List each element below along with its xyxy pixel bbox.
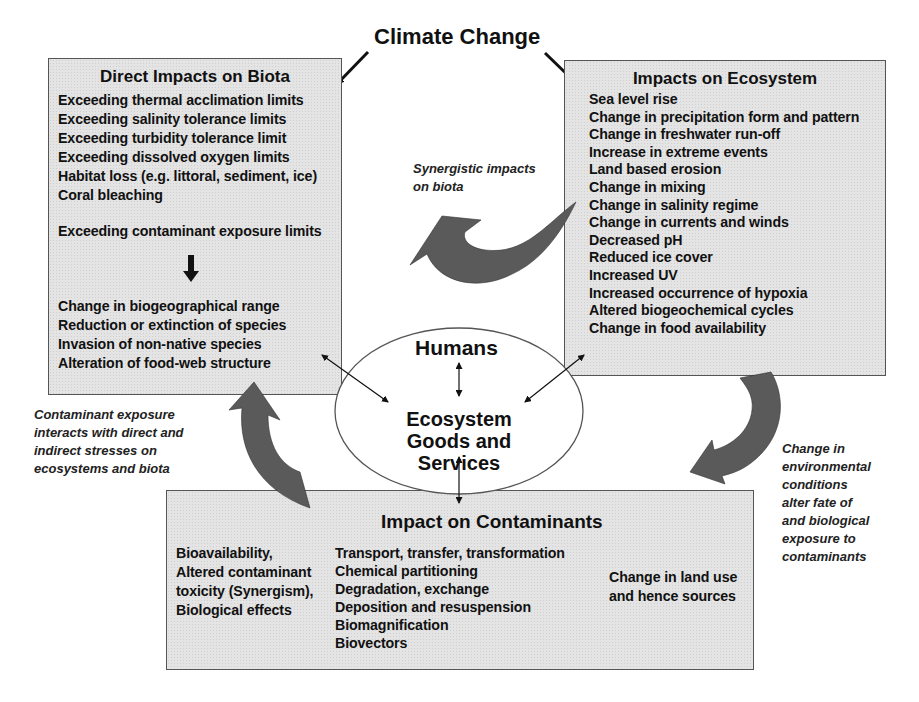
ecosystem-services-label: Ecosystem Goods and Services [364, 408, 554, 474]
curved-arrow-synergistic [410, 202, 576, 283]
ecosystem-label-line1: Ecosystem [364, 408, 554, 430]
curved-arrow-ecosystem-contaminants [690, 372, 780, 484]
curved-arrow-contaminants-biota [229, 382, 310, 508]
ecosystem-label-line2: Goods and Services [364, 430, 554, 474]
humans-label: Humans [415, 336, 498, 360]
